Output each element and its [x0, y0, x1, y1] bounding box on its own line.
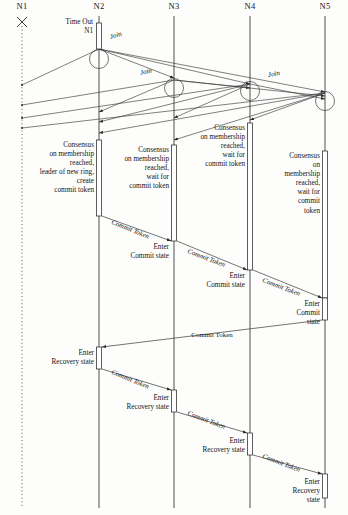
consensus-block-n3: Consensus on membership reached, wait fo…	[124, 146, 169, 191]
activation-bar-n2	[96, 23, 101, 49]
node-label-n5: N5	[320, 1, 331, 11]
activation-bar-n2	[96, 140, 101, 216]
activation-bar-n5	[322, 474, 327, 498]
activation-bar-n5	[322, 151, 327, 298]
recovery-state-label-n3: Enter Recovery state	[126, 394, 169, 412]
commit-token-label-n5-n2: Commit Token	[191, 331, 232, 338]
sequence-diagram-canvas: N1N2N3N4N5 Time Out N1Consensus on membe…	[0, 0, 348, 515]
commit-state-label-n5: Enter Commit state	[292, 300, 320, 327]
commit-token-arrow-n4-to-n5	[253, 270, 322, 298]
join-arrow-n2-to-n1	[22, 49, 99, 85]
node-label-n1: N1	[17, 1, 28, 11]
consensus-block-n2: Consensus on membership reached, leader …	[40, 141, 94, 196]
join-arrow-n3-to-n2	[99, 80, 174, 112]
timeout-label: Time Out N1	[66, 18, 94, 36]
activation-bar-n5	[322, 298, 327, 320]
diagram-vector-layer	[0, 0, 348, 515]
join-arrow-n5-to-n1	[22, 93, 325, 128]
recovery-state-label-n2: Enter Recovery state	[51, 349, 94, 367]
node-label-n2: N2	[94, 1, 105, 11]
join-arrow-n3-to-n1	[22, 80, 174, 105]
activation-bar-n4	[247, 433, 252, 455]
commit-state-label-n3: Enter Commit state	[130, 243, 169, 261]
node-crash-marker	[17, 17, 27, 27]
recovery-state-label-n4: Enter Recovery state	[202, 437, 245, 455]
join-arrow-n2-to-n5	[99, 49, 325, 92]
activation-bar-n3	[171, 390, 176, 412]
consensus-block-n4: Consensus on membership reached, wait fo…	[200, 124, 245, 169]
node-label-n4: N4	[245, 1, 256, 11]
node-label-n3: N3	[169, 1, 180, 11]
recovery-state-label-n5: Enter Recovery state	[292, 478, 320, 505]
consensus-block-n5: Consensus on membership reached, wait fo…	[284, 152, 320, 216]
commit-state-label-n4: Enter Commit state	[206, 272, 245, 290]
activation-bar-n2	[96, 347, 101, 369]
activation-bar-n3	[171, 145, 176, 241]
join-message-arrows	[22, 49, 325, 140]
activation-bar-n4	[247, 123, 252, 270]
